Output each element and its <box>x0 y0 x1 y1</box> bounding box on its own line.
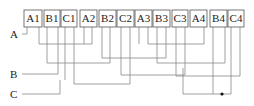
svg-text:C1: C1 <box>63 12 76 24</box>
box-c2: C2 <box>117 10 134 27</box>
svg-text:B4: B4 <box>212 12 225 24</box>
svg-text:C3: C3 <box>174 12 187 24</box>
bus-label-a: A <box>10 28 18 40</box>
box-c1: C1 <box>61 10 77 27</box>
wire-c3-c4 <box>176 27 240 76</box>
box-b2: B2 <box>99 10 116 27</box>
wire-c4-junction <box>183 27 231 94</box>
svg-text:B2: B2 <box>101 12 114 24</box>
box-a3: A3 <box>135 10 152 27</box>
bus-label-b: B <box>10 68 17 80</box>
box-c4: C4 <box>228 10 244 27</box>
box-b4: B4 <box>210 10 227 27</box>
box-a1: A1 <box>24 10 42 27</box>
svg-text:B3: B3 <box>155 12 168 24</box>
terminal-boxes: A1 B1 C1 A2 B2 C2 A3 B3 C3 A4 B4 C4 <box>24 10 244 27</box>
wires <box>22 27 240 96</box>
wire-a-input <box>22 27 27 34</box>
bus-label-c: C <box>10 88 17 100</box>
svg-text:A4: A4 <box>192 12 206 24</box>
box-a4: A4 <box>190 10 207 27</box>
box-b1: B1 <box>44 10 60 27</box>
bus-labels: A B C <box>10 28 18 100</box>
box-b3: B3 <box>153 10 170 27</box>
svg-text:A3: A3 <box>137 12 151 24</box>
junction-dot <box>220 92 223 95</box>
wire-c2-c3 <box>121 27 185 75</box>
svg-text:C2: C2 <box>119 12 132 24</box>
wire-b2-b3 <box>102 27 166 58</box>
box-a2: A2 <box>80 10 97 27</box>
svg-text:A1: A1 <box>26 12 39 24</box>
wire-c-input <box>22 80 60 94</box>
svg-text:B1: B1 <box>46 12 59 24</box>
wire-b3-b4 <box>157 27 225 63</box>
wire-b1-b2 <box>47 27 110 63</box>
svg-text:C4: C4 <box>230 12 243 24</box>
svg-text:A2: A2 <box>82 12 95 24</box>
box-c3: C3 <box>172 10 188 27</box>
wiring-diagram: A1 B1 C1 A2 B2 C2 A3 B3 C3 A4 B4 C4 A B … <box>0 0 254 106</box>
